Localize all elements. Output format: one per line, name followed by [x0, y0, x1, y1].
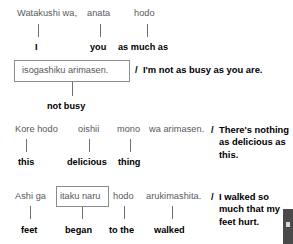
- gloss-walked: walked: [154, 225, 185, 236]
- gloss-thing: thing: [118, 157, 140, 168]
- romaji-segment-watakushi-wa: Watakushi wa,: [17, 8, 77, 19]
- connector-line: [38, 24, 39, 37]
- translation-text-3: I walked so much that my feet hurt.: [219, 191, 289, 228]
- romaji-segment-oishii: oishii: [78, 124, 99, 135]
- gloss-as-much-as: as much as: [118, 42, 168, 53]
- separator-slash: /: [211, 191, 214, 203]
- romaji-segment-hodo: hodo: [134, 8, 155, 19]
- gloss-you: you: [90, 42, 106, 53]
- connector-line: [30, 206, 31, 219]
- boxed-romaji-itaku-naru: itaku naru: [60, 191, 100, 202]
- gloss-to-the: to the: [109, 225, 134, 236]
- connector-line: [82, 207, 83, 219]
- separator-slash: /: [135, 64, 138, 76]
- romaji-segment-wa-arimasen: wa arimasen.: [149, 124, 204, 135]
- boxed-romaji-isogashiku-arimasen: isogashiku arimasen.: [22, 65, 108, 76]
- romaji-segment-mono: mono: [117, 124, 140, 135]
- connector-line: [89, 139, 90, 152]
- connector-line: [172, 206, 173, 219]
- gloss-i: I: [35, 42, 38, 53]
- gloss-feet: feet: [21, 225, 37, 236]
- connector-line: [147, 24, 148, 37]
- connector-line: [100, 24, 101, 37]
- gloss-not-busy: not busy: [47, 101, 85, 112]
- connector-line: [26, 139, 27, 152]
- grammar-breakdown-page: Watakushi wa, anata hodo I you as much a…: [0, 0, 293, 244]
- romaji-segment-arukimashita: arukimashita.: [146, 191, 201, 202]
- connector-line: [130, 139, 131, 152]
- romaji-segment-kore-hodo: Kore hodo: [15, 124, 58, 135]
- romaji-segment-anata: anata: [87, 8, 110, 19]
- page-edge-artifact-highlight: [286, 222, 290, 227]
- translation-text-1: I'm not as busy as you are.: [143, 64, 293, 76]
- connector-line: [72, 82, 73, 96]
- connector-line: [124, 206, 125, 219]
- gloss-began: began: [65, 225, 92, 236]
- gloss-delicious: delicious: [67, 157, 107, 168]
- gloss-this: this: [18, 157, 34, 168]
- romaji-segment-ashi-ga: Ashi ga: [15, 191, 46, 202]
- separator-slash: /: [211, 124, 214, 136]
- translation-text-2: There's nothing as delicious as this.: [219, 124, 289, 161]
- romaji-segment-hodo: hodo: [113, 191, 134, 202]
